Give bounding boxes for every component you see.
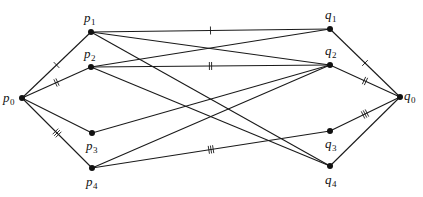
vertex-label-q2: q2 bbox=[325, 43, 337, 60]
vertex-label-p3: p3 bbox=[85, 138, 98, 155]
edge-p2-q2 bbox=[91, 65, 330, 67]
vertex-p2 bbox=[88, 64, 94, 70]
vertex-p1 bbox=[88, 29, 94, 35]
vertex-q3 bbox=[327, 128, 333, 134]
vertex-label-q1: q1 bbox=[325, 7, 337, 24]
vertex-q4 bbox=[327, 163, 333, 169]
congruence-tick-mark bbox=[210, 146, 211, 154]
edge-p0-p3 bbox=[22, 98, 92, 133]
congruence-tick-mark bbox=[213, 145, 214, 153]
vertex-label-q0: q0 bbox=[404, 88, 416, 105]
graph-diagram: p0p1p2p3p4q1q2q0q3q4 bbox=[0, 0, 423, 197]
vertex-p3 bbox=[89, 130, 95, 136]
edge-q4-q0 bbox=[330, 97, 400, 166]
edge-q2-q0 bbox=[330, 65, 400, 97]
edge-p0-p2 bbox=[22, 67, 91, 98]
vertex-label-q3: q3 bbox=[325, 136, 337, 153]
vertex-q2 bbox=[327, 62, 333, 68]
congruence-tick-mark bbox=[208, 146, 209, 154]
vertex-label-q4: q4 bbox=[325, 172, 337, 189]
edge-p4-q2 bbox=[92, 65, 330, 168]
vertex-q1 bbox=[327, 26, 333, 32]
vertex-p4 bbox=[89, 165, 95, 171]
edge-p2-q1 bbox=[91, 29, 330, 67]
vertex-label-p0: p0 bbox=[2, 90, 15, 107]
vertex-p0 bbox=[19, 95, 25, 101]
edge-p3-q2 bbox=[92, 65, 330, 133]
vertex-label-p4: p4 bbox=[85, 174, 98, 191]
vertex-label-p2: p2 bbox=[83, 46, 96, 63]
vertex-label-p1: p1 bbox=[83, 10, 96, 27]
edge-layer bbox=[22, 27, 400, 168]
vertex-q0 bbox=[397, 94, 403, 100]
